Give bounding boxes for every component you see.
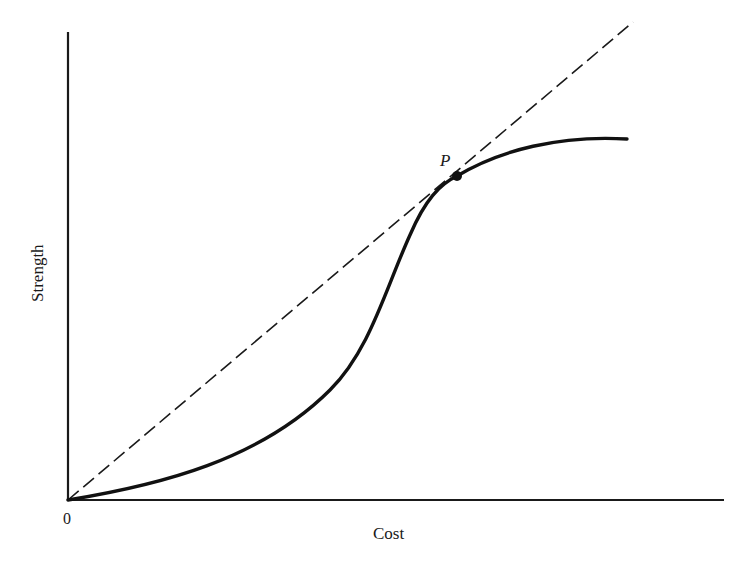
strength-cost-diagram: P 0 Cost Strength (0, 0, 748, 561)
origin-label: 0 (63, 510, 71, 527)
tangent-line (68, 22, 633, 500)
strength-curve (68, 138, 627, 500)
point-p-label: P (439, 151, 450, 170)
y-axis-label: Strength (28, 244, 47, 302)
point-p-marker (452, 171, 462, 181)
x-axis-label: Cost (373, 524, 404, 543)
